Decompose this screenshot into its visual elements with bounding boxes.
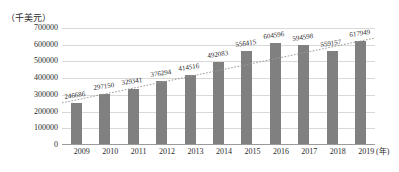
bar[interactable]: [185, 75, 196, 144]
bar[interactable]: [128, 89, 139, 144]
x-axis-tick-label: 2015: [237, 147, 267, 157]
x-axis-tick-label: 2010: [95, 147, 125, 157]
x-axis-tick-label: 2011: [124, 147, 154, 157]
bar[interactable]: [71, 103, 82, 144]
data-label: 559157: [320, 39, 342, 49]
x-axis-tick-label: 2016: [266, 147, 296, 157]
y-axis-tick-label: 400000: [2, 74, 58, 82]
plot-area: 2466862971503293413762944145164920835564…: [62, 28, 375, 145]
gridline: [62, 28, 375, 29]
data-label: 246686: [64, 91, 86, 101]
x-axis-tick-labels: 2009201020112012201320142015201620172018…: [62, 147, 375, 161]
x-axis-tick-label: 2013: [181, 147, 211, 157]
x-axis-tick-label: 2009: [67, 147, 97, 157]
data-label: 556415: [235, 39, 257, 49]
x-axis-tick-label: 2018: [323, 147, 353, 157]
y-axis-tick-label: 0: [2, 141, 58, 149]
data-label: 617949: [349, 29, 371, 39]
x-axis-tick-label: 2012: [152, 147, 182, 157]
bar[interactable]: [156, 81, 167, 144]
data-label: 329341: [121, 77, 143, 87]
y-axis-tick-label: 100000: [2, 124, 58, 132]
y-axis-tick-label: 300000: [2, 91, 58, 99]
bar[interactable]: [298, 45, 309, 144]
data-label: 414516: [178, 63, 200, 73]
bar[interactable]: [355, 41, 366, 144]
x-axis-tick-label: 2014: [209, 147, 239, 157]
data-label: 492083: [207, 50, 229, 60]
y-axis-tick-label: 200000: [2, 108, 58, 116]
bar-chart: （千美元） 0100000200000300000400000500000600…: [0, 0, 399, 172]
data-label: 594598: [292, 33, 314, 43]
data-label: 297150: [93, 82, 115, 92]
data-label: 604596: [263, 31, 285, 41]
bar[interactable]: [241, 51, 252, 144]
y-axis-tick-label: 600000: [2, 41, 58, 49]
x-axis-line: [62, 144, 375, 145]
y-axis-tick-label: 500000: [2, 57, 58, 65]
y-axis-tick-label: 700000: [2, 24, 58, 32]
x-axis-unit-label: (年): [376, 147, 389, 157]
bar[interactable]: [213, 62, 224, 144]
x-axis-tick-label: 2017: [294, 147, 324, 157]
bar[interactable]: [327, 51, 338, 144]
bar[interactable]: [270, 43, 281, 144]
bar[interactable]: [99, 94, 110, 144]
